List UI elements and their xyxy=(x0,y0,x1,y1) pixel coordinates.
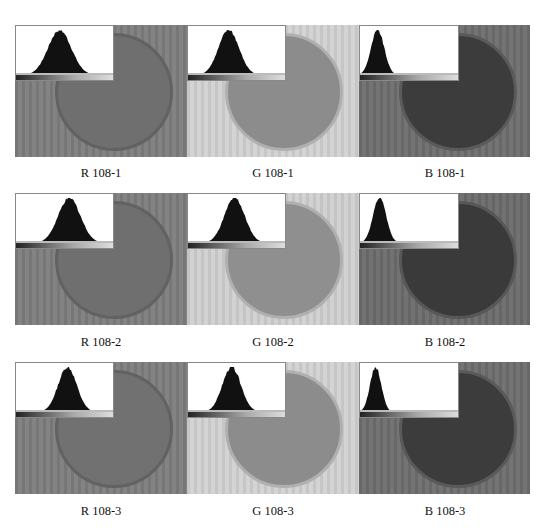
panel-caption: R 108-1 xyxy=(15,166,187,181)
histogram-gradient-bar xyxy=(188,243,285,248)
panel-r-108-1 xyxy=(15,25,187,157)
panel-caption: B 108-3 xyxy=(359,504,531,519)
histogram-inset xyxy=(15,25,114,81)
histogram-inset xyxy=(187,193,286,249)
panel-caption: G 108-2 xyxy=(187,335,359,350)
histogram-chart xyxy=(16,194,114,243)
histogram-inset xyxy=(15,362,114,418)
panel-b-108-1 xyxy=(359,25,530,157)
panel-caption: G 108-1 xyxy=(187,166,359,181)
panel-caption: B 108-2 xyxy=(359,335,531,350)
histogram-chart xyxy=(16,26,114,75)
histogram-gradient-bar xyxy=(16,243,113,248)
histogram-gradient-bar xyxy=(16,75,113,80)
panel-g-108-3 xyxy=(187,362,359,494)
histogram-gradient-bar xyxy=(360,412,458,417)
panel-r-108-3 xyxy=(15,362,187,494)
panel-g-108-1 xyxy=(187,25,359,157)
histogram-inset xyxy=(187,362,286,418)
histogram-inset xyxy=(359,362,459,418)
panel-caption: G 108-3 xyxy=(187,504,359,519)
panel-b-108-2 xyxy=(359,193,530,325)
histogram-chart xyxy=(360,26,459,75)
histogram-inset xyxy=(187,25,286,81)
histogram-gradient-bar xyxy=(360,75,458,80)
panel-r-108-2 xyxy=(15,193,187,325)
histogram-inset xyxy=(359,193,459,249)
histogram-chart xyxy=(188,363,286,412)
panel-b-108-3 xyxy=(359,362,530,494)
histogram-gradient-bar xyxy=(16,412,113,417)
histogram-chart xyxy=(360,194,459,243)
panel-caption: B 108-1 xyxy=(359,166,531,181)
histogram-gradient-bar xyxy=(188,412,285,417)
panel-g-108-2 xyxy=(187,193,359,325)
panel-caption: R 108-2 xyxy=(15,335,187,350)
panel-caption: R 108-3 xyxy=(15,504,187,519)
histogram-gradient-bar xyxy=(188,75,285,80)
histogram-gradient-bar xyxy=(360,243,458,248)
histogram-chart xyxy=(16,363,114,412)
histogram-inset xyxy=(359,25,459,81)
histogram-chart xyxy=(188,26,286,75)
histogram-chart xyxy=(188,194,286,243)
histogram-chart xyxy=(360,363,459,412)
histogram-inset xyxy=(15,193,114,249)
